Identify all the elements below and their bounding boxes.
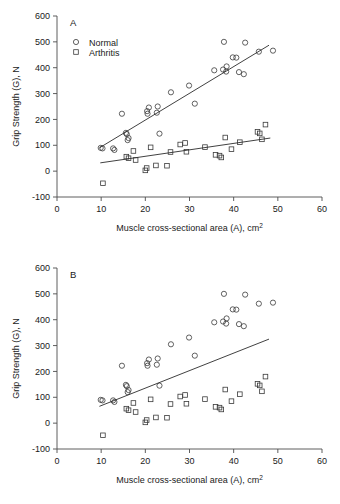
data-point-normal bbox=[243, 292, 248, 297]
data-point-arthritis bbox=[178, 394, 183, 399]
y-tick-label: 600 bbox=[35, 263, 50, 273]
x-tick-label: 10 bbox=[96, 456, 106, 466]
legend-label-normal: Normal bbox=[89, 38, 118, 48]
data-point-normal bbox=[155, 104, 160, 109]
data-point-arthritis bbox=[133, 410, 138, 415]
y-tick-label: 200 bbox=[35, 115, 50, 125]
data-point-arthritis bbox=[263, 122, 268, 127]
panel-b-data-points bbox=[98, 291, 275, 437]
data-point-arthritis bbox=[101, 181, 106, 186]
data-point-arthritis bbox=[154, 163, 159, 168]
data-point-arthritis bbox=[219, 155, 224, 160]
y-tick-label: 300 bbox=[35, 89, 50, 99]
x-axis-ticks: 0102030405060 bbox=[54, 197, 327, 214]
data-point-normal bbox=[110, 146, 115, 151]
circle-marker bbox=[73, 39, 78, 44]
data-point-arthritis bbox=[223, 135, 228, 140]
data-point-arthritis bbox=[260, 389, 265, 394]
x-axis-title: Muscle cross-sectional area (A), cm2 bbox=[116, 474, 263, 486]
x-axis-title: Muscle cross-sectional area (A), cm2 bbox=[116, 222, 263, 234]
data-point-normal bbox=[168, 90, 173, 95]
data-point-normal bbox=[270, 300, 275, 305]
data-point-normal bbox=[119, 363, 124, 368]
y-tick-label: 500 bbox=[35, 289, 50, 299]
data-point-normal bbox=[243, 40, 248, 45]
panel-a: -1000100200300400500600 0102030405060 A … bbox=[0, 0, 340, 252]
y-tick-label: -100 bbox=[32, 192, 50, 202]
data-point-normal bbox=[236, 322, 241, 327]
panel-a-label: A bbox=[70, 17, 77, 28]
data-point-normal bbox=[241, 324, 246, 329]
data-point-arthritis bbox=[154, 415, 159, 420]
panel-a-data-points bbox=[98, 39, 275, 185]
data-point-normal bbox=[154, 362, 159, 367]
y-tick-label: 100 bbox=[35, 140, 50, 150]
data-point-normal bbox=[270, 48, 275, 53]
data-point-arthritis bbox=[165, 415, 170, 420]
data-point-normal bbox=[168, 342, 173, 347]
data-point-arthritis bbox=[184, 401, 189, 406]
data-point-normal bbox=[186, 335, 191, 340]
panel-a-plot: -1000100200300400500600 0102030405060 A … bbox=[0, 0, 340, 252]
regression-line bbox=[99, 45, 269, 148]
panel-b-axes: -1000100200300400500600 0102030405060 bbox=[32, 263, 327, 466]
y-tick-label: 0 bbox=[45, 418, 50, 428]
legend-label-arthritis: Arthritis bbox=[89, 48, 120, 58]
x-tick-label: 20 bbox=[140, 204, 150, 214]
data-point-arthritis bbox=[223, 387, 228, 392]
y-tick-label: 100 bbox=[35, 392, 50, 402]
data-point-arthritis bbox=[131, 401, 136, 406]
y-tick-label: 500 bbox=[35, 37, 50, 47]
data-point-normal bbox=[234, 307, 239, 312]
data-point-arthritis bbox=[238, 392, 243, 397]
x-tick-label: 0 bbox=[54, 204, 59, 214]
y-tick-label: 0 bbox=[45, 166, 50, 176]
data-point-arthritis bbox=[219, 407, 224, 412]
x-axis-ticks: 0102030405060 bbox=[54, 449, 327, 466]
data-point-arthritis bbox=[229, 147, 234, 152]
data-point-arthritis bbox=[229, 399, 234, 404]
data-point-normal bbox=[155, 356, 160, 361]
data-point-normal bbox=[221, 291, 226, 296]
y-tick-label: 300 bbox=[35, 341, 50, 351]
panel-b: -1000100200300400500600 0102030405060 B … bbox=[0, 252, 340, 504]
regression-line bbox=[99, 339, 269, 406]
y-axis-ticks: -1000100200300400500600 bbox=[32, 11, 57, 202]
data-point-arthritis bbox=[168, 402, 173, 407]
data-point-arthritis bbox=[263, 374, 268, 379]
data-point-arthritis bbox=[183, 141, 188, 146]
panel-b-label: B bbox=[70, 269, 76, 280]
data-point-arthritis bbox=[133, 158, 138, 163]
y-axis-ticks: -1000100200300400500600 bbox=[32, 263, 57, 454]
data-point-normal bbox=[241, 72, 246, 77]
data-point-normal bbox=[112, 147, 117, 152]
x-tick-label: 30 bbox=[184, 456, 194, 466]
data-point-normal bbox=[224, 64, 229, 69]
data-point-normal bbox=[236, 70, 241, 75]
panel-b-regression-lines bbox=[99, 339, 269, 406]
y-tick-label: 600 bbox=[35, 11, 50, 21]
panel-a-axes: -1000100200300400500600 0102030405060 bbox=[32, 11, 327, 214]
y-tick-label: 400 bbox=[35, 63, 50, 73]
x-tick-label: 60 bbox=[317, 456, 327, 466]
x-tick-label: 40 bbox=[229, 456, 239, 466]
data-point-normal bbox=[192, 101, 197, 106]
data-point-arthritis bbox=[101, 433, 106, 438]
data-point-arthritis bbox=[178, 142, 183, 147]
square-marker bbox=[74, 50, 79, 55]
data-point-normal bbox=[234, 55, 239, 60]
data-point-normal bbox=[157, 131, 162, 136]
data-point-normal bbox=[192, 353, 197, 358]
data-point-arthritis bbox=[148, 145, 153, 150]
y-axis-title: Grip Strength (G), N bbox=[11, 66, 21, 147]
legend: Normal Arthritis bbox=[73, 38, 120, 58]
data-point-normal bbox=[224, 316, 229, 321]
x-tick-label: 60 bbox=[317, 204, 327, 214]
data-point-arthritis bbox=[131, 149, 136, 154]
x-tick-label: 50 bbox=[273, 204, 283, 214]
x-tick-label: 50 bbox=[273, 456, 283, 466]
y-tick-label: -100 bbox=[32, 444, 50, 454]
data-point-normal bbox=[212, 68, 217, 73]
data-point-normal bbox=[212, 320, 217, 325]
data-point-normal bbox=[157, 383, 162, 388]
